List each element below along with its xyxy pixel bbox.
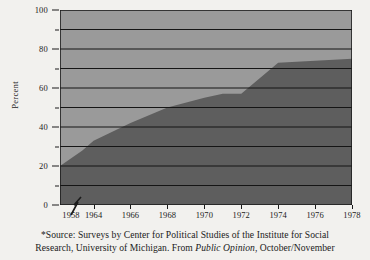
y-tick-label-40: 40 xyxy=(39,123,48,132)
y-tick-mark-minor-70 xyxy=(55,68,59,69)
x-tick-label-1978: 1978 xyxy=(343,211,360,220)
x-tick-label-1968: 1968 xyxy=(159,211,176,220)
footnote-line-2-prefix: Research, University of Michigan. From xyxy=(35,242,195,253)
y-tick-mark-minor-10 xyxy=(55,185,59,186)
y-tick-mark-100 xyxy=(52,10,59,11)
x-tick-mark-1976 xyxy=(315,205,316,209)
x-tick-mark-1966 xyxy=(130,205,131,209)
footnote-line-2-suffix: , October/November xyxy=(255,242,335,253)
y-tick-label-60: 60 xyxy=(39,84,48,93)
x-tick-mark-1972 xyxy=(241,205,242,209)
x-tick-mark-1970 xyxy=(204,205,205,209)
x-axis: 195819641966196819701972197419761978 xyxy=(0,205,370,229)
x-tick-mark-1968 xyxy=(167,205,168,209)
x-tick-label-1966: 1966 xyxy=(122,211,139,220)
footnote-line-2: Research, University of Michigan. From P… xyxy=(0,241,370,254)
y-tick-label-80: 80 xyxy=(39,45,48,54)
y-tick-mark-40 xyxy=(52,127,59,128)
y-tick-label-100: 100 xyxy=(35,6,48,15)
chart-figure: Percent 020406080100 1958196419661968197… xyxy=(0,0,370,260)
y-axis-title: Percent xyxy=(10,65,20,125)
plot-area xyxy=(60,10,352,205)
x-tick-mark-1978 xyxy=(352,205,353,209)
x-tick-mark-1974 xyxy=(278,205,279,209)
x-tick-label-1976: 1976 xyxy=(306,211,323,220)
axis-break-zigzag-icon xyxy=(66,196,88,216)
area-chart-svg xyxy=(60,10,352,205)
source-footnote: *Source: Surveys by Center for Political… xyxy=(0,228,370,254)
y-tick-mark-minor-90 xyxy=(55,29,59,30)
y-tick-mark-60 xyxy=(52,88,59,89)
footnote-line-1: *Source: Surveys by Center for Political… xyxy=(0,228,370,241)
y-axis: Percent 020406080100 xyxy=(0,0,60,215)
footnote-publication-title: Public Opinion xyxy=(195,242,255,253)
y-tick-mark-20 xyxy=(52,166,59,167)
y-tick-label-20: 20 xyxy=(39,162,48,171)
y-tick-mark-minor-50 xyxy=(55,107,59,108)
x-tick-label-1974: 1974 xyxy=(269,211,286,220)
x-tick-mark-1964 xyxy=(94,205,95,209)
y-tick-mark-minor-30 xyxy=(55,146,59,147)
x-tick-label-1970: 1970 xyxy=(196,211,213,220)
x-tick-label-1972: 1972 xyxy=(233,211,250,220)
y-tick-mark-80 xyxy=(52,49,59,50)
